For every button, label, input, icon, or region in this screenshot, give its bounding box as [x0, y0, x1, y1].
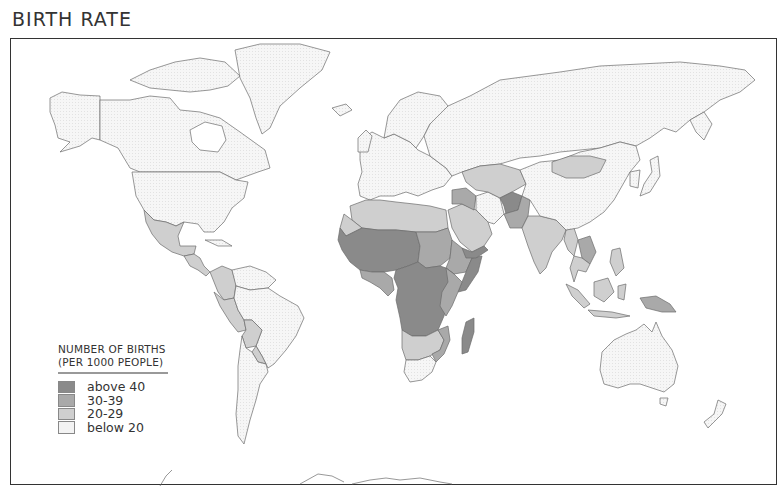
- region-philippines: [610, 248, 624, 276]
- region-korea: [630, 170, 640, 188]
- region-myanmar: [564, 228, 578, 256]
- region-madagascar: [462, 318, 474, 354]
- region-antarctic-peninsula: [160, 470, 172, 486]
- region-alaska: [50, 92, 100, 152]
- region-west-africa: [338, 228, 420, 272]
- legend-divider: [58, 372, 168, 374]
- legend-item-20-29: 20-29: [58, 407, 168, 421]
- legend-label: below 20: [87, 420, 144, 435]
- region-sudan: [416, 228, 452, 268]
- region-japan: [640, 156, 660, 196]
- region-india: [522, 216, 566, 274]
- region-java: [588, 310, 630, 318]
- legend-title-line1: NUMBER OF BIRTHS: [58, 343, 168, 356]
- legend-title-line2: (PER 1000 PEOPLE): [58, 356, 168, 369]
- region-borneo: [594, 278, 614, 302]
- region-south-africa: [404, 356, 436, 382]
- region-caribbean: [205, 240, 232, 246]
- swatch-20-29: [58, 408, 75, 421]
- legend-item-30-39: 30-39: [58, 394, 168, 408]
- swatch-below-20: [58, 421, 75, 434]
- legend-item-above-40: above 40: [58, 380, 168, 394]
- region-sulawesi: [618, 284, 626, 300]
- region-arctic-islands: [130, 58, 240, 92]
- region-antarctica: [300, 474, 452, 484]
- region-australia: [600, 322, 678, 392]
- swatch-30-39: [58, 394, 75, 407]
- region-central-america: [184, 254, 210, 276]
- region-tasmania: [660, 398, 668, 406]
- legend-item-below-20: below 20: [58, 421, 168, 435]
- region-new-zealand: [704, 400, 726, 428]
- region-png: [640, 296, 676, 312]
- region-north-africa: [350, 200, 448, 232]
- swatch-above-40: [58, 381, 75, 394]
- region-indonesia-sumatra: [566, 284, 590, 308]
- region-greenland: [235, 44, 330, 134]
- region-gulf-guinea: [360, 270, 394, 296]
- legend: NUMBER OF BIRTHS (PER 1000 PEOPLE) above…: [58, 343, 168, 434]
- region-iceland: [332, 104, 352, 116]
- region-canada: [100, 96, 270, 180]
